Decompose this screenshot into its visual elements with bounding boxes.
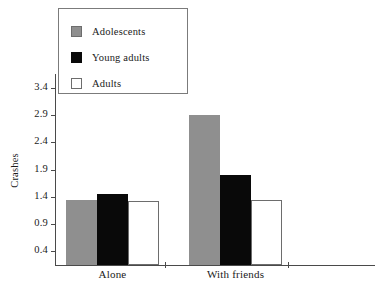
legend-swatch-adolescents-icon xyxy=(71,26,82,37)
legend-swatch-young-adults-icon xyxy=(71,52,82,63)
y-tick-mark xyxy=(51,224,56,225)
bar-alone-adolescents xyxy=(66,200,97,265)
x-tick-mark xyxy=(288,262,289,268)
y-tick-mark xyxy=(51,142,56,143)
y-tick-mark xyxy=(51,197,56,198)
bar-alone-young-adults xyxy=(97,194,128,265)
legend-label-adults: Adults xyxy=(92,78,121,89)
x-group-label-with-friends: With friends xyxy=(186,268,286,280)
x-group-label-alone: Alone xyxy=(63,268,163,280)
y-tick-label: 1.4 xyxy=(18,191,48,202)
legend-item: Adolescents xyxy=(71,18,187,44)
legend-swatch-adults-icon xyxy=(71,78,82,89)
bar-alone-adults xyxy=(128,201,159,265)
y-tick-label: 0.4 xyxy=(18,245,48,256)
bar-chart: Crashes 0.40.91.41.92.42.93.4 AloneWith … xyxy=(0,0,384,288)
y-tick-label: 0.9 xyxy=(18,218,48,229)
x-axis-line xyxy=(55,265,375,266)
legend-label-young-adults: Young adults xyxy=(92,52,150,63)
bar-with-friends-adults xyxy=(251,200,282,265)
y-tick-mark xyxy=(51,115,56,116)
y-tick-label: 3.4 xyxy=(18,82,48,93)
y-tick-mark xyxy=(51,170,56,171)
y-tick-label: 2.4 xyxy=(18,136,48,147)
bar-with-friends-young-adults xyxy=(220,175,251,265)
legend-label-adolescents: Adolescents xyxy=(92,26,146,37)
y-tick-label: 1.9 xyxy=(18,164,48,175)
y-tick-mark xyxy=(51,88,56,89)
bar-with-friends-adolescents xyxy=(189,115,220,265)
legend-item: Young adults xyxy=(71,44,187,70)
x-tick-mark xyxy=(165,262,166,268)
y-tick-mark xyxy=(51,251,56,252)
legend-item: Adults xyxy=(71,70,187,96)
y-tick-label: 2.9 xyxy=(18,109,48,120)
legend: Adolescents Young adults Adults xyxy=(58,8,188,94)
